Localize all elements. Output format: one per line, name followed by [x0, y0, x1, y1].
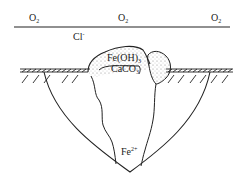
label-calcium-carbonate: CaCO3	[111, 64, 139, 75]
label-o2-left: O2	[29, 13, 39, 24]
tubercle-right	[148, 51, 171, 84]
label-ferrous-ion: Fe2+	[121, 146, 137, 157]
label-o2-right: O2	[211, 13, 221, 24]
label-o2-middle: O2	[118, 13, 128, 24]
label-chloride: Cl-	[73, 31, 84, 42]
metal-surface-left	[20, 69, 90, 83]
metal-surface-right	[166, 69, 233, 83]
fissure-left	[91, 76, 116, 164]
corrosion-pit-diagram: O2 O2 O2 Cl- Fe(OH)3 CaCO3 Fe2+	[0, 0, 246, 185]
pit-outline	[44, 72, 210, 172]
diagram-drawing	[0, 0, 246, 185]
